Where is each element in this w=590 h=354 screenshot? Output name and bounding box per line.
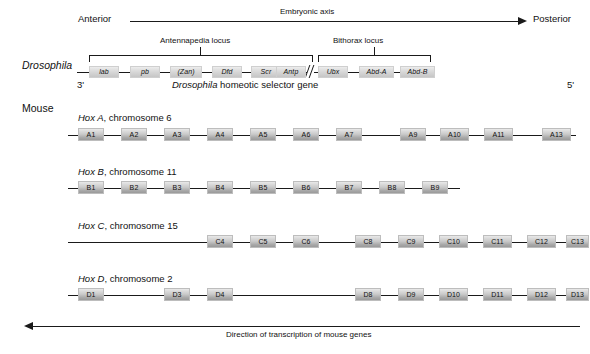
drosophila-caption-rest: homeotic selector gene [217, 79, 318, 90]
posterior-label: Posterior [533, 14, 571, 24]
transcription-direction-label: Direction of transcription of mouse gene… [226, 330, 371, 339]
gene-box[interactable]: C8 [355, 235, 381, 248]
gene-box[interactable]: pb [130, 66, 160, 78]
gene-box[interactable]: D11 [483, 288, 512, 301]
gene-box[interactable]: B7 [336, 181, 362, 194]
gene-box[interactable]: A5 [250, 128, 276, 141]
gene-box[interactable]: A11 [484, 128, 513, 141]
gene-box[interactable]: A2 [121, 128, 147, 141]
cluster-chromosome-hoxd: , chromosome 2 [104, 273, 172, 284]
cluster-title-hoxa: Hox A, chromosome 6 [78, 113, 172, 123]
gene-box[interactable]: B8 [379, 181, 405, 194]
gene-box[interactable]: D8 [355, 288, 381, 301]
gene-box[interactable]: C6 [293, 235, 319, 248]
gene-box[interactable]: Dfd [212, 66, 242, 78]
gene-box[interactable]: B6 [293, 181, 319, 194]
gene-box[interactable]: A9 [400, 128, 426, 141]
gene-box[interactable]: C10 [439, 235, 468, 248]
gene-box[interactable]: C5 [250, 235, 276, 248]
cluster-name-hoxc: Hox C [78, 220, 104, 231]
cluster-chromosome-hoxb: , chromosome 11 [104, 166, 177, 177]
gene-box[interactable]: C12 [527, 235, 556, 248]
gene-box[interactable]: D9 [398, 288, 424, 301]
cluster-name-hoxb: Hox B [78, 166, 104, 177]
gene-box[interactable]: B4 [207, 181, 233, 194]
gene-box[interactable]: lab [89, 66, 119, 78]
drosophila-caption-italic: Drosophila [172, 79, 217, 90]
gene-box[interactable]: D3 [164, 288, 190, 301]
gene-box[interactable]: A10 [440, 128, 469, 141]
gene-box[interactable]: D4 [207, 288, 233, 301]
gene-box[interactable]: A13 [542, 128, 571, 141]
gene-box[interactable]: A1 [78, 128, 104, 141]
gene-box[interactable]: A6 [293, 128, 319, 141]
gene-box[interactable]: A4 [207, 128, 233, 141]
three-prime-label: 3' [77, 80, 84, 90]
embryonic-axis-line [130, 21, 519, 22]
gene-box[interactable]: D13 [566, 288, 589, 301]
gene-box[interactable]: C9 [398, 235, 424, 248]
gene-box[interactable]: Abd-B [400, 66, 435, 78]
gene-box[interactable]: (Zan) [170, 66, 202, 78]
gene-box[interactable]: B1 [78, 181, 104, 194]
gene-box[interactable]: D10 [439, 288, 468, 301]
gene-box[interactable]: C11 [483, 235, 512, 248]
cluster-title-hoxb: Hox B, chromosome 11 [78, 167, 177, 177]
gene-box[interactable]: B3 [164, 181, 190, 194]
gene-box[interactable]: Ubx [318, 66, 348, 78]
cluster-name-hoxd: Hox D [78, 273, 104, 284]
bithorax-locus-label: Bithorax locus [333, 36, 383, 45]
anterior-label: Anterior [78, 14, 111, 24]
drosophila-caption: Drosophila homeotic selector gene [172, 80, 318, 90]
gene-box[interactable]: C4 [207, 235, 233, 248]
gene-box[interactable]: D1 [78, 288, 104, 301]
figure-canvas: Anterior Embryonic axis Posterior Drosop… [0, 0, 590, 354]
gene-box[interactable]: C13 [566, 235, 589, 248]
gene-box[interactable]: B2 [121, 181, 147, 194]
drosophila-organism-label: Drosophila [22, 60, 72, 71]
antennapedia-locus-label: Antennapedia locus [160, 36, 230, 45]
cluster-chromosome-hoxc: , chromosome 15 [104, 220, 177, 231]
gene-box[interactable]: B5 [250, 181, 276, 194]
gene-box[interactable]: A7 [336, 128, 362, 141]
mouse-organism-label: Mouse [22, 103, 54, 114]
transcription-axis-line [32, 326, 580, 327]
cluster-name-hoxa: Hox A [78, 112, 104, 123]
embryonic-axis-label: Embryonic axis [280, 7, 334, 16]
gene-box[interactable]: Antp [276, 66, 306, 78]
gene-box[interactable]: B9 [422, 181, 448, 194]
gene-box[interactable]: Abd-A [359, 66, 394, 78]
cluster-chromosome-hoxa: , chromosome 6 [104, 112, 172, 123]
embryonic-axis-arrowhead [518, 17, 527, 25]
gene-box[interactable]: D12 [527, 288, 556, 301]
five-prime-label: 5' [567, 80, 574, 90]
gene-box[interactable]: A3 [164, 128, 190, 141]
cluster-title-hoxc: Hox C, chromosome 15 [78, 221, 178, 231]
cluster-title-hoxd: Hox D, chromosome 2 [78, 274, 173, 284]
